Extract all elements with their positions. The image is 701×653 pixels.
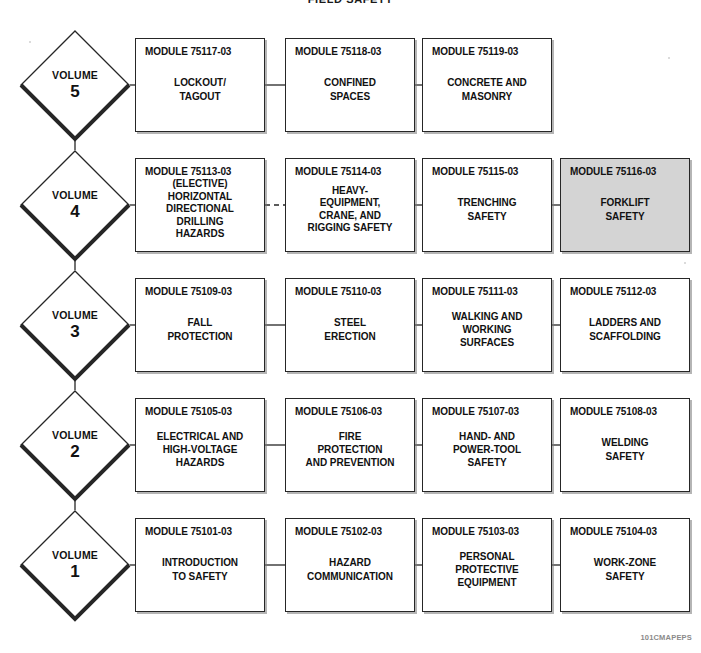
- scan-speck: [684, 262, 686, 264]
- diamond-label: VOLUME5: [19, 29, 131, 141]
- module-title: FIRE PROTECTION AND PREVENTION: [306, 417, 395, 486]
- module-code: MODULE 75102-03: [291, 526, 382, 537]
- diamond-label: VOLUME3: [19, 269, 131, 381]
- module-title: PERSONAL PROTECTIVE EQUIPMENT: [455, 537, 518, 606]
- module-title: STEEL ERECTION: [324, 297, 375, 366]
- module-box-module-75107-03[interactable]: MODULE 75107-03HAND- AND POWER-TOOL SAFE…: [422, 398, 552, 492]
- module-title: WELDING SAFETY: [602, 417, 649, 486]
- module-code: MODULE 75115-03: [428, 166, 518, 177]
- module-box-module-75106-03[interactable]: MODULE 75106-03FIRE PROTECTION AND PREVE…: [285, 398, 415, 492]
- figure-id-label: 101CMAPEPS: [640, 633, 692, 642]
- module-box-module-75103-03[interactable]: MODULE 75103-03PERSONAL PROTECTIVE EQUIP…: [422, 518, 552, 612]
- volume-number: 5: [70, 83, 79, 101]
- module-box-module-75112-03[interactable]: MODULE 75112-03LADDERS AND SCAFFOLDING: [560, 278, 690, 372]
- module-box-module-75101-03[interactable]: MODULE 75101-03INTRODUCTION TO SAFETY: [135, 518, 265, 612]
- volume-diamond-5[interactable]: VOLUME5: [19, 29, 131, 141]
- diamond-label: VOLUME4: [19, 149, 131, 261]
- module-box-module-75110-03[interactable]: MODULE 75110-03STEEL ERECTION: [285, 278, 415, 372]
- module-code: MODULE 75106-03: [291, 406, 382, 417]
- module-code: MODULE 75103-03: [428, 526, 519, 537]
- module-title: (ELECTIVE) HORIZONTAL DIRECTIONAL DRILLI…: [166, 177, 234, 246]
- module-title: FORKLIFT SAFETY: [600, 177, 649, 246]
- module-box-module-75102-03[interactable]: MODULE 75102-03HAZARD COMMUNICATION: [285, 518, 415, 612]
- module-code: MODULE 75104-03: [566, 526, 657, 537]
- module-code: MODULE 75114-03: [291, 166, 381, 177]
- module-box-module-75104-03[interactable]: MODULE 75104-03WORK-ZONE SAFETY: [560, 518, 690, 612]
- module-title: HEAVY- EQUIPMENT, CRANE, AND RIGGING SAF…: [308, 177, 393, 246]
- volume-word: VOLUME: [52, 190, 98, 201]
- module-box-module-75114-03[interactable]: MODULE 75114-03HEAVY- EQUIPMENT, CRANE, …: [285, 158, 415, 252]
- module-box-module-75119-03[interactable]: MODULE 75119-03CONCRETE AND MASONRY: [422, 38, 552, 132]
- module-code: MODULE 75109-03: [141, 286, 232, 297]
- volume-diamond-3[interactable]: VOLUME3: [19, 269, 131, 381]
- volume-diamond-2[interactable]: VOLUME2: [19, 389, 131, 501]
- module-box-module-75115-03[interactable]: MODULE 75115-03TRENCHING SAFETY: [422, 158, 552, 252]
- module-code: MODULE 75113-03: [141, 166, 231, 177]
- volume-word: VOLUME: [52, 310, 98, 321]
- course-map-diagram: FIELD SAFETY VOLUME5MODULE 75117-03LOCKO…: [0, 0, 701, 653]
- module-code: MODULE 75112-03: [566, 286, 656, 297]
- volume-number: 4: [70, 203, 79, 221]
- module-code: MODULE 75118-03: [291, 46, 381, 57]
- module-code: MODULE 75111-03: [428, 286, 518, 297]
- scan-speck: [668, 57, 670, 59]
- module-box-module-75105-03[interactable]: MODULE 75105-03ELECTRICAL AND HIGH-VOLTA…: [135, 398, 265, 492]
- module-box-module-75117-03[interactable]: MODULE 75117-03LOCKOUT/ TAGOUT: [135, 38, 265, 132]
- volume-number: 3: [70, 323, 79, 341]
- diamond-label: VOLUME1: [19, 509, 131, 621]
- module-title: ELECTRICAL AND HIGH-VOLTAGE HAZARDS: [157, 417, 244, 486]
- module-title: CONCRETE AND MASONRY: [447, 57, 527, 126]
- module-box-module-75113-03[interactable]: MODULE 75113-03(ELECTIVE) HORIZONTAL DIR…: [135, 158, 265, 252]
- module-box-module-75108-03[interactable]: MODULE 75108-03WELDING SAFETY: [560, 398, 690, 492]
- module-code: MODULE 75108-03: [566, 406, 657, 417]
- module-title: WORK-ZONE SAFETY: [594, 537, 656, 606]
- module-title: LOCKOUT/ TAGOUT: [174, 57, 226, 126]
- module-box-module-75118-03[interactable]: MODULE 75118-03CONFINED SPACES: [285, 38, 415, 132]
- module-title: HAZARD COMMUNICATION: [307, 537, 393, 606]
- module-box-module-75116-03[interactable]: MODULE 75116-03FORKLIFT SAFETY: [560, 158, 690, 252]
- module-title: WALKING AND WORKING SURFACES: [452, 297, 523, 366]
- module-box-module-75109-03[interactable]: MODULE 75109-03FALL PROTECTION: [135, 278, 265, 372]
- module-code: MODULE 75110-03: [291, 286, 381, 297]
- module-title: LADDERS AND SCAFFOLDING: [589, 297, 661, 366]
- module-code: MODULE 75119-03: [428, 46, 518, 57]
- volume-word: VOLUME: [52, 430, 98, 441]
- module-title: INTRODUCTION TO SAFETY: [162, 537, 238, 606]
- module-title: HAND- AND POWER-TOOL SAFETY: [453, 417, 521, 486]
- volume-word: VOLUME: [52, 70, 98, 81]
- volume-diamond-4[interactable]: VOLUME4: [19, 149, 131, 261]
- module-title: CONFINED SPACES: [324, 57, 376, 126]
- diamond-label: VOLUME2: [19, 389, 131, 501]
- volume-number: 2: [70, 443, 79, 461]
- module-code: MODULE 75101-03: [141, 526, 232, 537]
- page-title: FIELD SAFETY: [0, 0, 701, 5]
- module-title: TRENCHING SAFETY: [458, 177, 517, 246]
- volume-diamond-1[interactable]: VOLUME1: [19, 509, 131, 621]
- volume-word: VOLUME: [52, 550, 98, 561]
- module-code: MODULE 75116-03: [566, 166, 656, 177]
- module-code: MODULE 75107-03: [428, 406, 519, 417]
- volume-number: 1: [70, 563, 79, 581]
- module-box-module-75111-03[interactable]: MODULE 75111-03WALKING AND WORKING SURFA…: [422, 278, 552, 372]
- scan-speck: [29, 41, 31, 43]
- module-code: MODULE 75117-03: [141, 46, 231, 57]
- module-code: MODULE 75105-03: [141, 406, 232, 417]
- module-title: FALL PROTECTION: [167, 297, 232, 366]
